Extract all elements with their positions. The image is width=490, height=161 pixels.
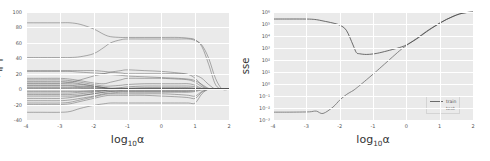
panel-sse: sse log10α train test 10⁶10⁵10⁴10³10²10¹… <box>245 0 490 161</box>
gridline-vertical <box>273 12 274 120</box>
x-tick-label: 1 <box>438 123 441 129</box>
y-tick-label: 0 <box>2 86 22 92</box>
x-label-sub: 10 <box>373 139 382 148</box>
gridline-horizontal <box>273 120 473 121</box>
gridline-vertical <box>94 12 95 120</box>
y-tick-label: 10³ <box>249 45 270 51</box>
x-tick-label: 2 <box>227 123 230 129</box>
x-tick-label: -2 <box>91 123 96 129</box>
y-tick-label: -40 <box>2 117 22 123</box>
gridline-vertical <box>26 12 27 120</box>
y-tick-label: 20 <box>2 71 22 77</box>
x-tick-label: 2 <box>471 123 474 129</box>
gridline-horizontal <box>26 120 229 121</box>
gridline-vertical <box>60 12 61 120</box>
x-axis-label-left: log10α <box>111 134 144 150</box>
x-tick-label: 0 <box>405 123 408 129</box>
y-tick-label: 100 <box>2 9 22 15</box>
panel-coefficient-path: 계수 log10α 100806040200-20-40-4-3-2-1012 <box>0 0 245 161</box>
x-tick-label: -4 <box>271 123 276 129</box>
y-tick-label: 10² <box>249 57 270 63</box>
x-axis-label-right: log10α <box>356 134 389 150</box>
x-tick-label: -1 <box>125 123 130 129</box>
y-tick-label: 40 <box>2 55 22 61</box>
y-tick-label: 60 <box>2 40 22 46</box>
y-tick-label: 10⁵ <box>249 21 270 27</box>
y-tick-label: 10⁻¹ <box>249 93 270 99</box>
y-tick-label: -20 <box>2 102 22 108</box>
x-label-var: α <box>382 133 389 146</box>
x-tick-label: 0 <box>160 123 163 129</box>
x-tick-label: -3 <box>57 123 62 129</box>
figure-container: 계수 log10α 100806040200-20-40-4-3-2-1012 … <box>0 0 490 161</box>
y-tick-label: 10¹ <box>249 69 270 75</box>
x-label-base: log <box>356 133 373 146</box>
x-tick-label: -3 <box>304 123 309 129</box>
legend-swatch-train <box>430 101 443 102</box>
y-tick-label: 10⁻³ <box>249 117 270 123</box>
y-tick-label: 10⁴ <box>249 33 270 39</box>
gridline-vertical <box>128 12 129 120</box>
gridline-vertical <box>373 12 374 120</box>
gridline-vertical <box>473 12 474 120</box>
y-tick-label: 10⁻² <box>249 105 270 111</box>
gridline-vertical <box>440 12 441 120</box>
y-tick-label: 80 <box>2 24 22 30</box>
legend-item-train[interactable]: train <box>430 99 456 104</box>
x-label-base: log <box>111 133 128 146</box>
gridline-vertical <box>161 12 162 120</box>
gridline-vertical <box>306 12 307 120</box>
gridline-vertical <box>229 12 230 120</box>
gridline-vertical <box>195 12 196 120</box>
gridline-vertical <box>340 12 341 120</box>
x-tick-label: -4 <box>24 123 29 129</box>
legend-label-train: train <box>446 99 456 104</box>
legend-sse: train test <box>426 96 460 114</box>
x-tick-label: 1 <box>194 123 197 129</box>
x-tick-label: -1 <box>371 123 376 129</box>
x-tick-label: -2 <box>337 123 342 129</box>
y-tick-label: 10⁶ <box>249 9 270 15</box>
y-tick-label: 10⁰ <box>249 81 270 87</box>
gridline-vertical <box>406 12 407 120</box>
x-label-sub: 10 <box>128 139 137 148</box>
x-label-var: α <box>137 133 144 146</box>
